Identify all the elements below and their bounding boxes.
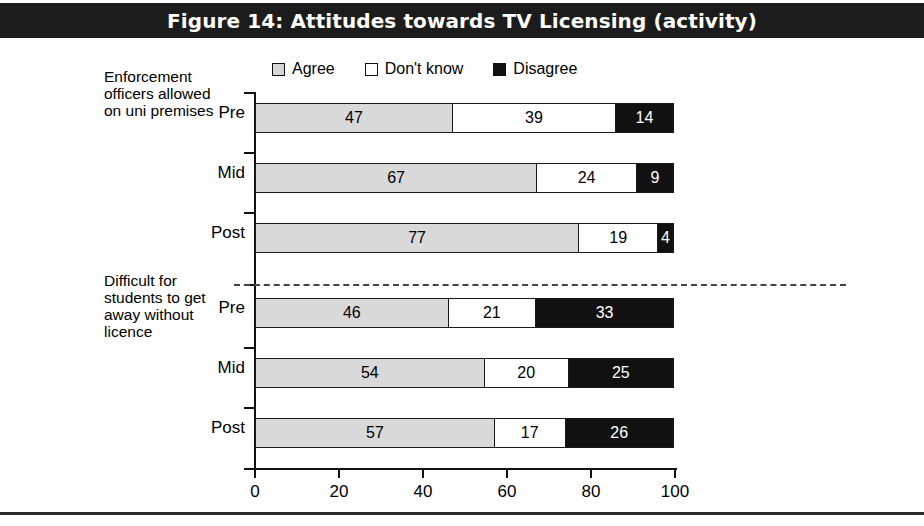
x-axis-tick: [254, 468, 256, 478]
bar-segment-value: 24: [578, 170, 596, 186]
bar-segment-value: 20: [517, 365, 535, 381]
y-axis-tick: [244, 152, 255, 154]
bar-segment-value: 33: [596, 305, 614, 321]
x-axis-tick-label: 60: [498, 482, 517, 502]
bar-segment-value: 21: [483, 305, 501, 321]
bar-segment-disagree: 4: [657, 223, 674, 253]
x-axis-tick-label: 80: [582, 482, 601, 502]
legend-item-agree: Agree: [272, 60, 335, 78]
table-row: 462133: [255, 298, 676, 328]
y-axis-tick: [244, 407, 255, 409]
bar-segment-dont-know: 21: [448, 298, 536, 328]
legend-item-disagree: Disagree: [493, 60, 577, 78]
row-label-g2-mid: Mid: [218, 358, 245, 378]
x-axis-tick: [506, 468, 508, 478]
legend-label-disagree: Disagree: [513, 60, 577, 78]
row-label-g2-post: Post: [211, 418, 245, 438]
bar-segment-dont-know: 39: [452, 103, 616, 133]
bar-segment-value: 4: [661, 230, 670, 246]
row-label-g1-pre: Pre: [219, 103, 245, 123]
bar-segment-value: 25: [612, 365, 630, 381]
bar-segment-value: 47: [345, 110, 363, 126]
bar-segment-agree: 67: [255, 163, 537, 193]
x-axis-tick-label: 20: [330, 482, 349, 502]
x-axis-tick: [422, 468, 424, 478]
table-row: 473914: [255, 103, 676, 133]
bar-segment-value: 54: [361, 365, 379, 381]
legend-item-dont-know: Don't know: [365, 60, 464, 78]
x-axis-tick: [338, 468, 340, 478]
plot-area: 0 20 40 60 80 100 473914 67249 77194 462…: [255, 96, 676, 468]
bar-segment-value: 46: [343, 305, 361, 321]
bar-segment-dont-know: 20: [484, 358, 569, 388]
chart-legend: Agree Don't know Disagree: [272, 60, 577, 78]
bar-segment-disagree: 9: [636, 163, 674, 193]
table-row: 67249: [255, 163, 676, 193]
bar-segment-disagree: 26: [565, 418, 674, 448]
table-row: 571726: [255, 418, 676, 448]
bar-segment-value: 39: [525, 110, 543, 126]
bar-segment-value: 77: [408, 230, 426, 246]
figure-title-bar: Figure 14: Attitudes towards TV Licensin…: [0, 3, 924, 38]
legend-swatch-dont-know-icon: [365, 63, 378, 76]
y-axis-line: [254, 92, 256, 468]
y-axis-tick: [244, 212, 255, 214]
bar-segment-disagree: 14: [615, 103, 674, 133]
bar-segment-value: 26: [610, 425, 628, 441]
x-axis-tick: [590, 468, 592, 478]
bar-segment-value: 14: [636, 110, 654, 126]
bar-segment-agree: 57: [255, 418, 495, 448]
page-title: Figure 14: Attitudes towards TV Licensin…: [167, 9, 757, 33]
bar-segment-agree: 47: [255, 103, 453, 133]
row-label-g2-pre: Pre: [219, 298, 245, 318]
legend-swatch-agree-icon: [272, 63, 285, 76]
table-row: 542025: [255, 358, 676, 388]
x-axis-line: [254, 468, 677, 470]
bar-segment-value: 17: [521, 425, 539, 441]
y-axis-tick: [244, 347, 255, 349]
bar-segment-value: 57: [366, 425, 384, 441]
bar-segment-dont-know: 17: [494, 418, 566, 448]
bar-segment-dont-know: 19: [578, 223, 658, 253]
y-axis-tick: [244, 92, 255, 94]
legend-label-dont-know: Don't know: [385, 60, 464, 78]
x-axis-tick-label: 40: [414, 482, 433, 502]
x-axis-tick-label: 0: [250, 482, 259, 502]
bar-segment-disagree: 33: [535, 298, 674, 328]
row-label-column: Pre Mid Post Pre Mid Post: [150, 96, 245, 468]
bar-segment-value: 19: [609, 230, 627, 246]
bar-segment-agree: 77: [255, 223, 579, 253]
figure-bottom-rule: [0, 512, 924, 515]
table-row: 77194: [255, 223, 676, 253]
legend-swatch-disagree-icon: [493, 63, 506, 76]
bar-segment-value: 67: [387, 170, 405, 186]
x-axis-tick: [674, 468, 676, 478]
row-label-g1-post: Post: [211, 223, 245, 243]
bar-segment-dont-know: 24: [536, 163, 637, 193]
figure-page: Figure 14: Attitudes towards TV Licensin…: [0, 0, 924, 526]
row-label-g1-mid: Mid: [218, 163, 245, 183]
group-separator-dashed-line: [234, 284, 846, 286]
bar-segment-agree: 54: [255, 358, 485, 388]
bar-segment-disagree: 25: [568, 358, 674, 388]
legend-label-agree: Agree: [292, 60, 335, 78]
x-axis-tick-label: 100: [661, 482, 689, 502]
bar-segment-value: 9: [651, 170, 660, 186]
bar-segment-agree: 46: [255, 298, 449, 328]
